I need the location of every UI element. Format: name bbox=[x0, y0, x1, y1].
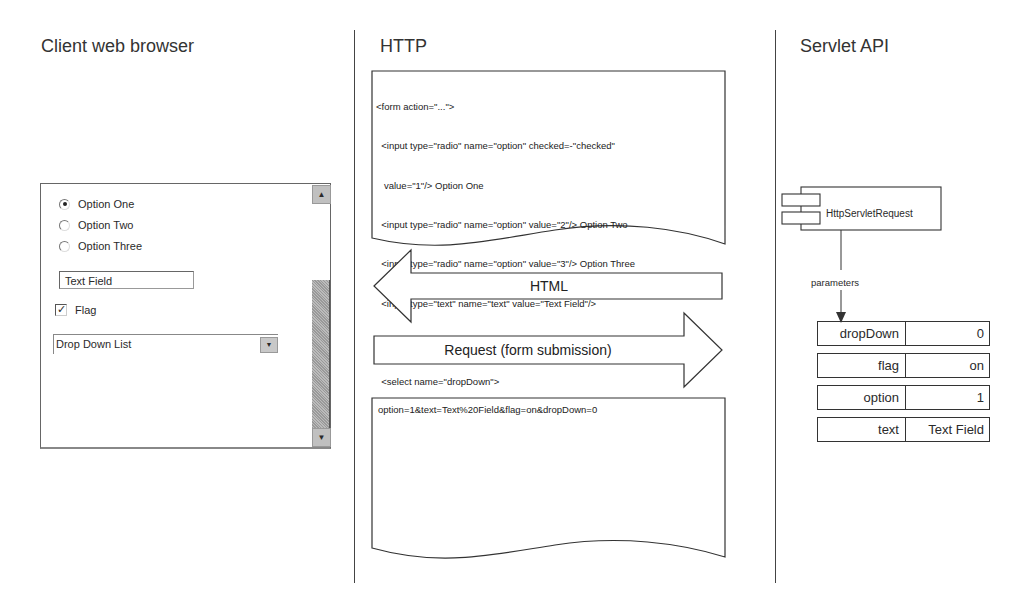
parameter-value: on bbox=[906, 354, 989, 377]
code-line: <form action="..."> bbox=[376, 100, 649, 113]
code-line: <input type="radio" name="option" checke… bbox=[376, 139, 649, 152]
parameter-value: Text Field bbox=[906, 418, 989, 441]
scrollbar-thumb[interactable] bbox=[312, 280, 330, 428]
html-arrow-label: HTML bbox=[372, 278, 726, 294]
component-label: HttpServletRequest bbox=[826, 208, 913, 219]
component-icon bbox=[782, 194, 820, 206]
flag-checkbox-row[interactable]: ✓ Flag bbox=[55, 304, 96, 316]
browser-window: Option One Option Two Option Three Text … bbox=[40, 183, 331, 449]
checkbox-checked-icon[interactable]: ✓ bbox=[55, 304, 67, 316]
radio-label: Option Three bbox=[78, 240, 142, 252]
parameter-name: option bbox=[818, 386, 906, 409]
scroll-up-arrow-icon[interactable]: ▲ bbox=[312, 185, 331, 204]
client-column-title: Client web browser bbox=[41, 36, 194, 57]
parameter-row: option 1 bbox=[817, 385, 990, 410]
parameter-name: dropDown bbox=[818, 322, 906, 345]
parameter-value: 1 bbox=[906, 386, 989, 409]
radio-unchecked-icon[interactable] bbox=[59, 220, 70, 231]
chevron-down-icon[interactable]: ▼ bbox=[260, 337, 278, 353]
dropdown-selected-value: Drop Down List bbox=[56, 338, 131, 350]
servlet-column-title: Servlet API bbox=[800, 36, 889, 57]
parameter-row: text Text Field bbox=[817, 417, 990, 442]
radio-label: Option Two bbox=[78, 219, 133, 231]
request-body-document-shape bbox=[370, 395, 730, 575]
scroll-down-arrow-icon[interactable]: ▼ bbox=[312, 428, 331, 447]
text-field-input[interactable]: Text Field bbox=[59, 271, 194, 289]
request-arrow-label: Request (form submission) bbox=[372, 342, 684, 358]
parameters-edge-label: parameters bbox=[811, 277, 859, 288]
code-line: <input type="radio" name="option" value=… bbox=[376, 218, 649, 231]
dropdown-select[interactable]: Drop Down List ▼ bbox=[53, 334, 278, 354]
checkbox-label: Flag bbox=[75, 304, 96, 316]
radio-label: Option One bbox=[78, 198, 134, 210]
column-divider-right bbox=[775, 30, 776, 583]
parameter-row: dropDown 0 bbox=[817, 321, 990, 346]
code-line: value="1"/> Option One bbox=[376, 179, 649, 192]
radio-option-three[interactable]: Option Three bbox=[59, 240, 142, 252]
http-column-title: HTTP bbox=[380, 36, 427, 57]
radio-unchecked-icon[interactable] bbox=[59, 241, 70, 252]
query-string: option=1&text=Text%20Field&flag=on&dropD… bbox=[378, 403, 597, 416]
radio-option-two[interactable]: Option Two bbox=[59, 219, 133, 231]
parameter-name: flag bbox=[818, 354, 906, 377]
column-divider-left bbox=[354, 30, 355, 583]
parameter-value: 0 bbox=[906, 322, 989, 345]
parameter-row: flag on bbox=[817, 353, 990, 378]
radio-option-one[interactable]: Option One bbox=[59, 198, 134, 210]
parameter-name: text bbox=[818, 418, 906, 441]
radio-checked-icon[interactable] bbox=[59, 199, 70, 210]
